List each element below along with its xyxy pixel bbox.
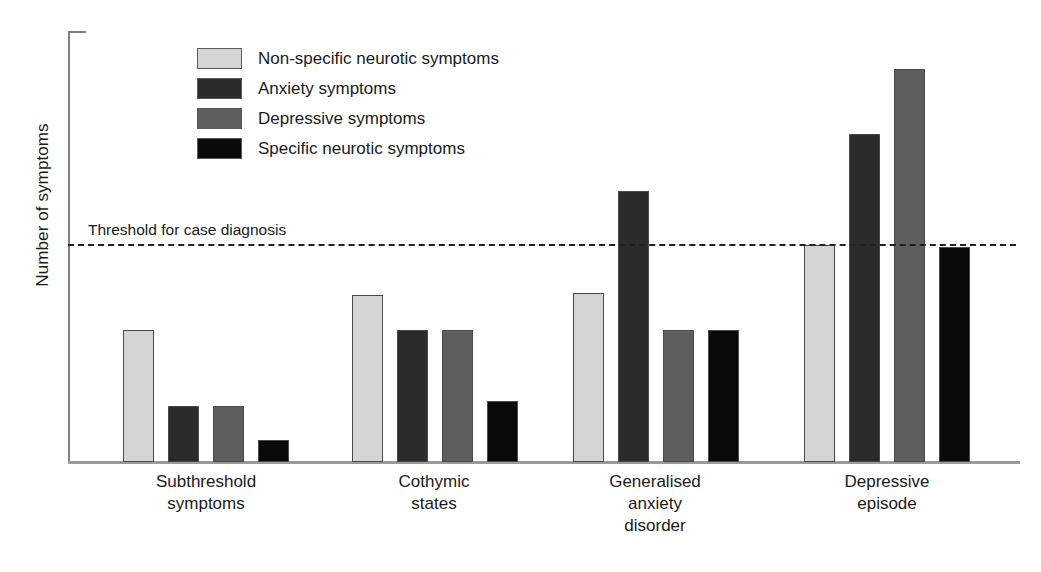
bar-group-0-series-1	[168, 406, 199, 462]
bar-group-2-series-3	[708, 330, 739, 462]
x-axis-group-label-1: Cothymic states	[314, 471, 554, 515]
bar-group-1-series-3	[487, 401, 518, 462]
x-axis-group-label-2: Generalised anxiety disorder	[535, 471, 775, 537]
bar-group-3-series-1	[849, 134, 880, 462]
threshold-label: Threshold for case diagnosis	[88, 221, 286, 239]
bar-group-1-series-0	[352, 295, 383, 462]
threshold-line	[68, 244, 1016, 246]
bar-group-1-series-1	[397, 330, 428, 462]
x-axis-group-label-0: Subthreshold symptoms	[86, 471, 326, 515]
bar-group-2-series-0	[573, 293, 604, 462]
bar-chart-figure: Number of symptoms Non-specific neurotic…	[0, 0, 1041, 572]
bar-group-3-series-0	[804, 245, 835, 462]
bar-group-3-series-2	[894, 69, 925, 462]
bar-group-0-series-2	[213, 406, 244, 462]
bar-group-1-series-2	[442, 330, 473, 462]
bar-group-2-series-1	[618, 191, 649, 462]
bar-group-2-series-2	[663, 330, 694, 462]
bar-group-3-series-3	[939, 247, 970, 462]
bar-group-0-series-0	[123, 330, 154, 462]
x-axis-group-label-3: Depressive episode	[767, 471, 1007, 515]
bar-group-0-series-3	[258, 440, 289, 462]
